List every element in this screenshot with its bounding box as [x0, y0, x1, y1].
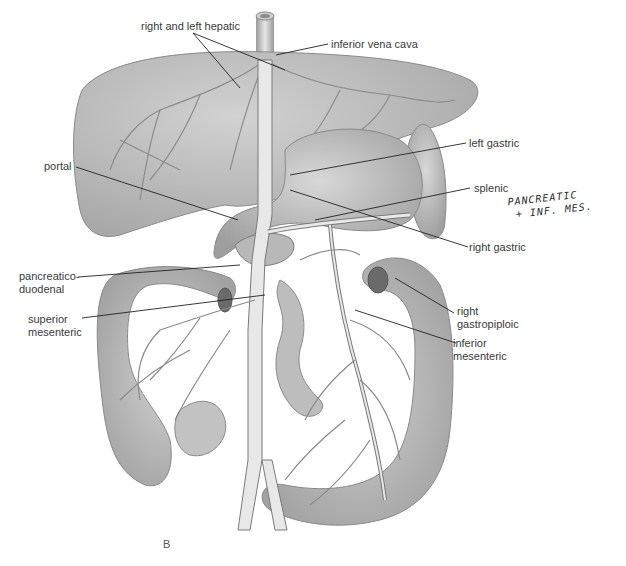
panel-letter: B [163, 538, 170, 550]
label-right-gastric: right gastric [469, 241, 526, 254]
label-right-and-left-hepatic: right and left hepatic [141, 20, 240, 33]
label-left-gastric: left gastric [469, 137, 519, 150]
label-splenic: splenic [474, 182, 508, 195]
colon-cut-end-right [368, 267, 388, 293]
inferior-vena-cava-vessel [256, 12, 274, 56]
ileum-loop [175, 401, 226, 455]
label-portal: portal [44, 160, 72, 173]
label-superior-mesenteric: superior mesenteric [28, 313, 82, 339]
anatomy-illustration [0, 0, 626, 566]
label-right-gastropiploic: right gastropiploic [457, 305, 519, 331]
label-inferior-mesenteric: inferior mesenteric [453, 337, 507, 363]
label-pancreaticoduodenal: pancreatico- duodenal [19, 270, 80, 296]
ascending-colon [97, 267, 235, 486]
small-intestine [276, 280, 323, 416]
label-inferior-vena-cava: inferior vena cava [331, 38, 418, 51]
